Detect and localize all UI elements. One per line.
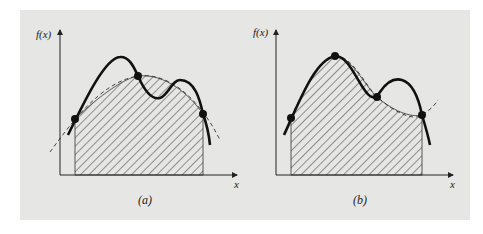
panel-a-point-3 bbox=[199, 110, 207, 118]
panel-a: f(x) x (a) bbox=[36, 28, 239, 207]
panel-a-x-label: x bbox=[233, 178, 239, 190]
panel-b-point-1 bbox=[287, 114, 295, 122]
panel-a-y-label: f(x) bbox=[36, 28, 52, 41]
panel-b: f(x) x (b) bbox=[253, 26, 455, 207]
panel-a-point-2 bbox=[134, 72, 142, 80]
figure-svg: f(x) x (a) f(x) x (b) bbox=[0, 0, 483, 234]
panel-a-point-1 bbox=[71, 115, 79, 123]
panel-b-caption: (b) bbox=[353, 193, 367, 207]
panel-b-hatched-area bbox=[291, 56, 422, 175]
panel-b-y-label: f(x) bbox=[253, 26, 269, 39]
panel-b-point-2 bbox=[331, 52, 339, 60]
panel-a-hatched-area bbox=[75, 76, 203, 175]
panel-b-point-3 bbox=[373, 93, 381, 101]
panel-a-caption: (a) bbox=[138, 193, 152, 207]
panel-b-x-label: x bbox=[449, 178, 455, 190]
panel-b-point-4 bbox=[418, 111, 426, 119]
